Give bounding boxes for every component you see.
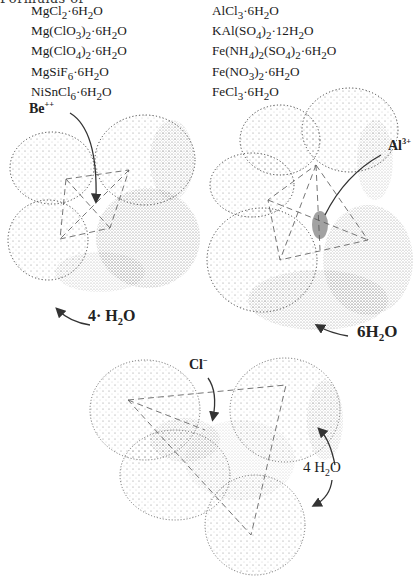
al-ion-label: Al3+ <box>388 137 411 154</box>
molecule-illustrations <box>0 0 418 583</box>
cl-ion-label: Cl− <box>189 356 208 373</box>
be-ion-label: Be++ <box>29 100 54 117</box>
be-water-label: 4· H2O <box>88 307 135 327</box>
cl-water-label: 4 H2O <box>303 459 341 478</box>
beryllium-hydrate-figure <box>8 113 200 325</box>
aluminum-hydrate-figure <box>207 88 413 336</box>
al-water-label: 6H2O <box>357 322 398 343</box>
